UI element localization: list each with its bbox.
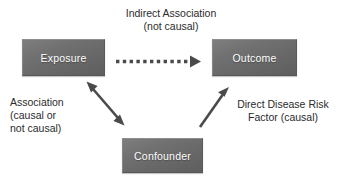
arrow-shaft <box>200 95 223 127</box>
annotation-indirect-association: Indirect Association (not causal) <box>106 7 236 33</box>
arrowhead-upper-left <box>87 82 98 93</box>
annotation-direct-disease-risk-factor: Direct Disease Risk Factor (causal) <box>228 98 338 124</box>
annotation-association: Association (causal or not causal) <box>10 96 94 135</box>
double-arrow-shaft <box>93 89 118 118</box>
edge-exposure-to-outcome-dotted-arrow <box>116 56 201 68</box>
node-outcome[interactable]: Outcome <box>212 39 297 76</box>
arrowhead-upper-right <box>218 87 229 97</box>
node-exposure[interactable]: Exposure <box>22 39 105 76</box>
node-confounder[interactable]: Confounder <box>122 138 203 173</box>
arrowhead-lower-right <box>113 115 124 126</box>
node-confounder-label: Confounder <box>134 150 191 162</box>
node-outcome-label: Outcome <box>233 52 277 64</box>
node-exposure-label: Exposure <box>41 52 87 64</box>
diagram-canvas: Exposure Outcome Confounder Indirect Ass… <box>0 0 341 183</box>
edge-confounder-to-outcome-arrow <box>200 87 229 127</box>
arrowhead-right <box>190 56 201 68</box>
